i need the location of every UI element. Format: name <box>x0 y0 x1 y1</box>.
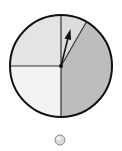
spinner-diagram <box>0 0 122 151</box>
marble-icon <box>55 135 65 145</box>
spinner <box>10 15 112 117</box>
